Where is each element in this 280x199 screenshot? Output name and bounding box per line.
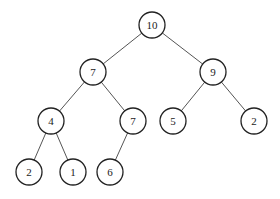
node-label: 6	[107, 166, 113, 178]
tree-node: 2	[241, 108, 267, 134]
tree-nodes: 10794752216	[16, 12, 267, 185]
tree-edge	[59, 82, 84, 111]
tree-node: 9	[200, 59, 226, 85]
tree-edge	[56, 133, 68, 160]
tree-node: 6	[97, 159, 123, 185]
tree-edge	[101, 82, 125, 111]
tree-node: 10	[139, 12, 165, 38]
node-label: 4	[48, 115, 54, 127]
tree-edge	[162, 33, 202, 64]
node-label: 7	[90, 66, 96, 78]
tree-node: 4	[38, 108, 64, 134]
node-label: 2	[26, 166, 32, 178]
binary-tree-diagram: 10794752216	[0, 0, 280, 199]
tree-edge	[34, 133, 46, 160]
tree-node: 5	[160, 108, 186, 134]
node-label: 2	[251, 115, 257, 127]
tree-edge	[181, 82, 205, 111]
tree-edges	[34, 33, 246, 160]
tree-node: 2	[16, 159, 42, 185]
node-label: 9	[210, 66, 216, 78]
node-label: 5	[170, 115, 176, 127]
tree-node: 1	[60, 159, 86, 185]
tree-node: 7	[80, 59, 106, 85]
tree-edge	[115, 133, 127, 160]
node-label: 7	[130, 115, 136, 127]
tree-edge	[103, 33, 142, 64]
tree-node: 7	[120, 108, 146, 134]
node-label: 10	[147, 19, 159, 31]
tree-edge	[221, 82, 245, 111]
node-label: 1	[70, 166, 76, 178]
